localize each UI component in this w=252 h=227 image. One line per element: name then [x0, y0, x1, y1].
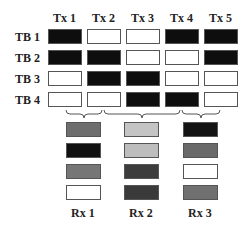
grouping-braces [0, 0, 252, 227]
rx-label-3: Rx 3 [188, 206, 212, 221]
rx-label-2: Rx 2 [129, 206, 153, 221]
rx-label-1: Rx 1 [71, 206, 95, 221]
